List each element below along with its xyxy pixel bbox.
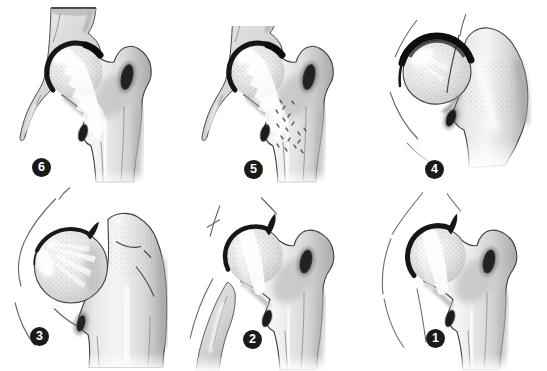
top-crop xyxy=(182,0,364,26)
stage-number: 2 xyxy=(249,333,256,346)
panel-stage-1: 1 xyxy=(365,186,547,371)
panel-stage-3: 3 xyxy=(0,186,182,371)
figure-hip-stages: 6 5 xyxy=(0,0,547,371)
stage-badge-1: 1 xyxy=(426,329,445,348)
panel-stage-5: 5 xyxy=(182,0,364,186)
bottom-fade xyxy=(365,355,547,371)
stage-badge-2: 2 xyxy=(243,330,262,349)
stage-number: 5 xyxy=(250,163,257,176)
bottom-fade xyxy=(0,353,182,371)
bottom-fade xyxy=(182,355,364,371)
hip-illustration-stage-5 xyxy=(182,0,364,186)
panel-stage-6: 6 xyxy=(0,0,182,186)
femur xyxy=(409,228,517,370)
hip-illustration-stage-6 xyxy=(0,0,182,186)
stage-badge-5: 5 xyxy=(244,160,263,179)
stage-number: 1 xyxy=(432,332,439,345)
stage-badge-3: 3 xyxy=(30,327,49,346)
bottom-fade xyxy=(365,140,547,170)
hip-illustration-stage-1 xyxy=(365,186,547,371)
bottom-fade xyxy=(182,170,364,186)
stage-number: 3 xyxy=(36,330,43,343)
stage-badge-6: 6 xyxy=(32,158,51,177)
hip-illustration-stage-4 xyxy=(365,0,547,186)
panel-stage-4: 4 xyxy=(365,0,547,186)
stage-number: 4 xyxy=(431,163,438,176)
panel-stage-2: 2 xyxy=(182,186,364,371)
bottom-fade xyxy=(0,170,182,186)
femur xyxy=(47,43,152,182)
hip-illustration-stage-2 xyxy=(182,186,364,371)
hip-illustration-stage-3 xyxy=(0,186,182,371)
femur xyxy=(226,228,334,370)
stage-badge-4: 4 xyxy=(425,160,444,179)
stage-number: 6 xyxy=(38,161,45,174)
bottom-crop xyxy=(365,168,547,186)
femur xyxy=(229,43,334,182)
